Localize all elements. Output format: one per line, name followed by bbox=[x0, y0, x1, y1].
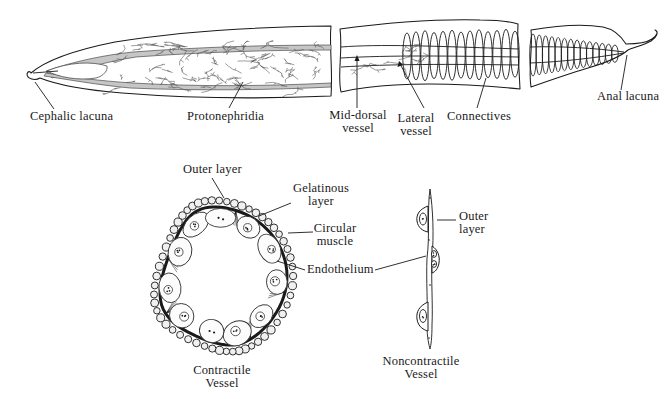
label-lateral-vessel: Lateral vessel bbox=[391, 112, 441, 138]
anatomy-figure: Cephalic lacuna Protonephridia Mid-dorsa… bbox=[0, 0, 669, 399]
label-outer-layer-noncontractile: Outer layer bbox=[459, 210, 505, 236]
contractile-vessel-drawing bbox=[151, 197, 297, 355]
label-protonephridia: Protonephridia bbox=[187, 110, 264, 123]
label-anal-lacuna: Anal lacuna bbox=[597, 90, 659, 103]
posterior-segment-drawing bbox=[530, 25, 657, 87]
noncontractile-vessel-drawing bbox=[417, 189, 439, 349]
label-mid-dorsal-vessel: Mid-dorsal vessel bbox=[326, 109, 390, 135]
label-endothelium: Endothelium bbox=[307, 263, 374, 276]
middle-segment-drawing bbox=[340, 20, 520, 92]
caption-contractile-vessel: Contractile Vessel bbox=[186, 364, 258, 390]
label-gelatinous-layer: Gelatinous layer bbox=[287, 182, 355, 208]
anterior-segment-drawing bbox=[27, 26, 332, 98]
label-outer-layer-contractile: Outer layer bbox=[183, 163, 242, 176]
caption-noncontractile-vessel: Noncontractile Vessel bbox=[372, 355, 470, 381]
label-circular-muscle: Circular muscle bbox=[311, 222, 359, 248]
label-connectives: Connectives bbox=[447, 110, 511, 123]
label-cephalic-lacuna: Cephalic lacuna bbox=[30, 110, 113, 123]
